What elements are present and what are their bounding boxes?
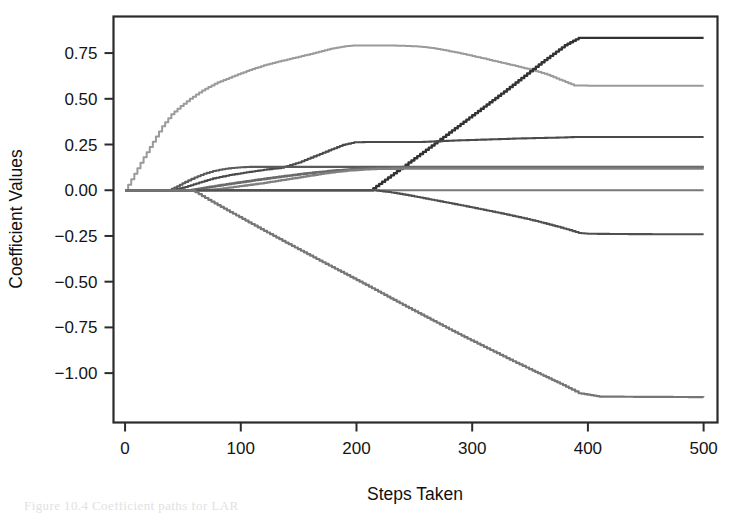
- x-tick-label-500: 500: [689, 439, 717, 458]
- y-tick-label-0.75: 0.75: [64, 44, 97, 63]
- x-tick-label-0: 0: [120, 439, 129, 458]
- y-axis-title: Coefficient Values: [6, 149, 26, 289]
- y-axis-ticks: [105, 53, 114, 373]
- plot-frame: [114, 17, 718, 423]
- x-tick-label-400: 400: [574, 439, 602, 458]
- y-tick-label-0.00: 0.00: [64, 181, 97, 200]
- y-axis-tick-labels: 0.750.500.250.00−0.25−0.50−0.75−1.00: [54, 44, 97, 383]
- caption-text: Figure 10.4 Coefficient paths for LAR: [24, 502, 239, 514]
- x-tick-label-300: 300: [458, 439, 486, 458]
- x-axis-ticks: [125, 423, 704, 432]
- figure-container: 0100200300400500 0.750.500.250.00−0.25−0…: [0, 0, 743, 515]
- x-tick-label-100: 100: [227, 439, 255, 458]
- coefficient-path-chart: 0100200300400500 0.750.500.250.00−0.25−0…: [0, 0, 743, 515]
- y-tick-label--0.50: −0.50: [54, 273, 97, 292]
- x-axis-title: Steps Taken: [367, 484, 463, 504]
- y-tick-label--0.25: −0.25: [54, 227, 97, 246]
- x-axis-tick-labels: 0100200300400500: [120, 439, 717, 458]
- y-tick-label--0.75: −0.75: [54, 318, 97, 337]
- figure-caption-cropped: Figure 10.4 Coefficient paths for LAR: [0, 502, 743, 515]
- y-tick-label--1.00: −1.00: [54, 364, 97, 383]
- y-tick-label-0.50: 0.50: [64, 90, 97, 109]
- y-tick-label-0.25: 0.25: [64, 136, 97, 155]
- x-tick-label-200: 200: [342, 439, 370, 458]
